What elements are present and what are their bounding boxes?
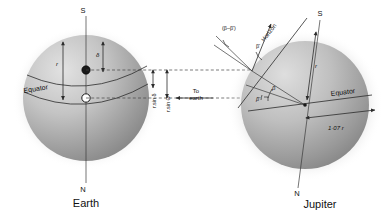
r-sin-delta-label: r.sin δ xyxy=(151,94,157,108)
jupiter-equatorial-radius-label: 1·07 r xyxy=(328,125,345,131)
earth-south-pole-label: S xyxy=(80,6,85,15)
earth-group: r δ Equator S N Earth xyxy=(12,6,160,209)
jupiter-north-pole-label: N xyxy=(294,189,299,198)
beta-angle-label: β xyxy=(271,85,276,91)
sight-line-upper xyxy=(216,36,252,71)
jupiter-group: Equator Horizon (β–β') β' β β' xyxy=(214,9,383,210)
to-earth-label-line2: earth xyxy=(189,95,203,101)
to-earth-label-line1: To xyxy=(193,88,200,94)
jupiter-body-label: Jupiter xyxy=(303,198,336,210)
jupiter-center-dot xyxy=(303,103,307,107)
beta-prime-upper-label: β' xyxy=(256,43,260,49)
jupiter-south-pole-label: S xyxy=(317,9,322,18)
diagram-canvas: r δ Equator S N Earth xyxy=(0,0,389,211)
earth-north-pole-label: N xyxy=(80,185,85,194)
astronomy-diagram: r δ Equator S N Earth xyxy=(0,0,389,211)
earth-body-label: Earth xyxy=(73,197,99,209)
r-sin-theta-label: r.sin Θ xyxy=(165,96,171,112)
beta-difference-label: (β–β') xyxy=(222,25,236,31)
